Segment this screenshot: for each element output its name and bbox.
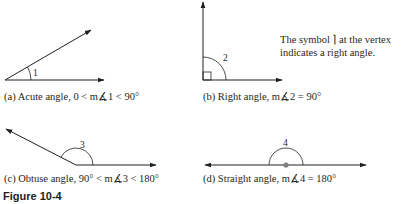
- note-line-1: The symbol ⌉ at the vertex: [280, 34, 391, 47]
- figure-title: Figure 10-4: [3, 190, 62, 202]
- angle-label-4: 4: [283, 138, 288, 148]
- right-angle-note: The symbol ⌉ at the vertex indicates a r…: [280, 34, 391, 59]
- right-angle-diagram: [203, 2, 282, 80]
- straight-angle-diagram: [205, 148, 366, 168]
- caption-obtuse: (c) Obtuse angle, 90° < m∡3 < 180°: [4, 173, 159, 185]
- vertex-dot: [283, 162, 288, 167]
- acute-angle-diagram: [5, 30, 104, 80]
- note-line-2: indicates a right angle.: [280, 47, 391, 60]
- angle-label-2: 2: [223, 53, 228, 63]
- caption-right: (b) Right angle, m∡2 = 90°: [203, 91, 321, 103]
- caption-acute: (a) Acute angle, 0 < m∡1 < 90°: [4, 91, 139, 103]
- caption-straight: (d) Straight angle, m∡4 = 180°: [203, 173, 336, 185]
- angle-label-1: 1: [33, 68, 38, 78]
- angle-label-3: 3: [80, 140, 85, 150]
